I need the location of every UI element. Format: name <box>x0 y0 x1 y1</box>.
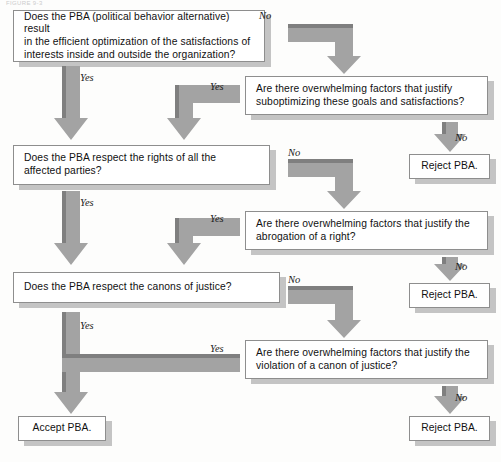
arrow-q3-no-to-e3 <box>288 286 361 338</box>
edge-label-yes-e1: Yes <box>210 81 224 92</box>
node-reject-2[interactable]: Reject PBA. <box>409 283 490 308</box>
node-exception-2[interactable]: Are there overwhelming factors that just… <box>245 211 488 250</box>
edge-label-yes-3: Yes <box>80 320 94 331</box>
arrow-e2-yes-to-q3 <box>167 218 240 265</box>
node-question-3-text: Does the PBA respect the canons of justi… <box>14 281 242 294</box>
edge-label-no-r3: No <box>455 392 467 403</box>
edge-label-yes-2: Yes <box>80 197 94 208</box>
node-exception-1[interactable]: Are there overwhelming factors that just… <box>245 76 488 115</box>
edge-label-no-2: No <box>288 147 300 158</box>
edge-label-yes-e2: Yes <box>210 213 224 224</box>
node-reject-3-text: Reject PBA. <box>410 422 489 435</box>
node-reject-3[interactable]: Reject PBA. <box>409 416 490 441</box>
arrow-q1-no-to-e1 <box>288 24 361 74</box>
node-question-1-text: Does the PBA (political behavior alterna… <box>14 11 264 61</box>
node-exception-3-text: Are there overwhelming factors that just… <box>246 347 480 372</box>
figure-caption: FIGURE 9-3 <box>6 0 43 6</box>
node-accept-text: Accept PBA. <box>19 422 105 435</box>
node-accept[interactable]: Accept PBA. <box>18 416 106 441</box>
node-question-3[interactable]: Does the PBA respect the canons of justi… <box>13 272 280 303</box>
node-question-1[interactable]: Does the PBA (political behavior alterna… <box>13 10 265 62</box>
node-exception-3[interactable]: Are there overwhelming factors that just… <box>245 340 488 379</box>
node-reject-2-text: Reject PBA. <box>410 289 489 302</box>
edge-label-no-r1: No <box>455 132 467 143</box>
arrow-e3-yes-to-a1 <box>62 354 240 372</box>
edge-label-no-r2: No <box>455 261 467 272</box>
flowchart-canvas: FIGURE 9-3 Q2 : straight down arrow --> … <box>0 0 501 462</box>
node-exception-2-text: Are there overwhelming factors that just… <box>246 218 480 243</box>
arrow-q2-no-to-e2 <box>288 159 361 209</box>
edge-label-no-1: No <box>259 10 271 21</box>
node-question-2-text: Does the PBA respect the rights of all t… <box>14 152 226 177</box>
edge-label-yes-e3: Yes <box>210 343 224 354</box>
node-exception-1-text: Are there overwhelming factors that just… <box>246 83 474 108</box>
edge-label-yes-1: Yes <box>80 72 94 83</box>
node-question-2[interactable]: Does the PBA respect the rights of all t… <box>13 145 270 185</box>
node-reject-1-text: Reject PBA. <box>410 160 489 173</box>
arrow-e1-yes-to-q2 <box>167 85 240 140</box>
edge-label-no-3: No <box>288 274 300 285</box>
node-reject-1[interactable]: Reject PBA. <box>409 154 490 179</box>
